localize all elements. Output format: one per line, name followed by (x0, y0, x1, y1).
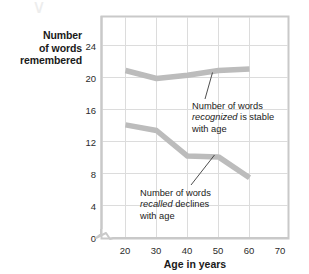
annotation-recalled-line-3: with age (140, 211, 211, 222)
annotation-recalled: Number of words recalled declines with a… (140, 188, 211, 222)
leader-line-recalled (191, 155, 215, 185)
x-axis-title: Age in years (101, 258, 289, 270)
annotation-recognized-emphasis: recognized (192, 112, 237, 122)
annotation-recalled-line-2-rest: declines (173, 199, 210, 209)
chart-figure: ∨ Number of words remembered 24 20 16 12… (0, 0, 309, 274)
annotation-recognized-line-2-rest: is stable (237, 112, 274, 122)
annotation-recalled-emphasis: recalled (140, 199, 173, 209)
annotation-recognized-line-2: recognized is stable (192, 112, 274, 123)
leader-line-recognized (205, 73, 213, 100)
axis-break-symbol (96, 229, 288, 239)
annotation-recognized-line-3: with age (192, 124, 274, 135)
annotation-recalled-line-1: Number of words (140, 188, 211, 199)
chart-plot-area (0, 0, 309, 274)
annotation-recalled-line-2: recalled declines (140, 199, 211, 210)
annotation-recognized-line-1: Number of words (192, 101, 274, 112)
annotation-recognized: Number of words recognized is stable wit… (192, 101, 274, 135)
